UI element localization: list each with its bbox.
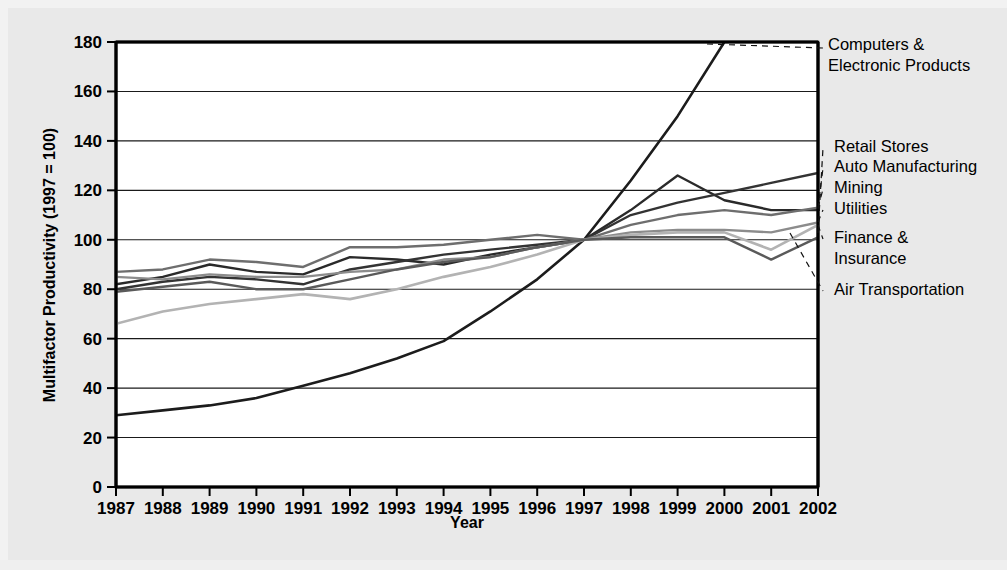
x-tick-label: 1993: [378, 499, 416, 518]
x-tick-label: 2000: [705, 499, 743, 518]
series-annotation-label: Insurance: [834, 249, 906, 267]
x-tick-label: 1988: [144, 499, 182, 518]
x-tick-label: 1996: [518, 499, 556, 518]
chart-figure: 020406080100120140160180 198719881989199…: [0, 0, 1007, 570]
y-tick-label: 100: [74, 231, 102, 250]
y-tick-label: 60: [83, 330, 102, 349]
series-annotation-label: Electronic Products: [828, 56, 970, 74]
x-tick-label: 1999: [659, 499, 697, 518]
y-axis-title: Multifactor Productivity (1997 = 100): [41, 128, 58, 402]
y-tick-labels: 020406080100120140160180: [74, 33, 102, 497]
x-tick-label: 1998: [612, 499, 650, 518]
x-axis-title: Year: [450, 514, 484, 531]
y-tick-label: 140: [74, 132, 102, 151]
x-tick-label: 2001: [752, 499, 790, 518]
series-annotation-label: Retail Stores: [834, 137, 928, 155]
x-tick-label: 1991: [284, 499, 322, 518]
series-annotation-label: Auto Manufacturing: [834, 157, 977, 175]
series-annotation-label: Mining: [834, 178, 883, 196]
y-tick-label: 80: [83, 280, 102, 299]
y-tick-label: 20: [83, 429, 102, 448]
plot-area: [116, 42, 818, 487]
y-tick-label: 40: [83, 379, 102, 398]
y-tick-label: 0: [93, 478, 102, 497]
series-annotation-label: Utilities: [834, 199, 887, 217]
x-tick-label: 1987: [97, 499, 135, 518]
series-annotation-label: Computers &: [828, 35, 924, 53]
series-annotation-label: Finance &: [834, 228, 908, 246]
x-tick-label: 2002: [799, 499, 837, 518]
y-tick-label: 120: [74, 181, 102, 200]
y-tick-label: 180: [74, 33, 102, 52]
x-tick-label: 1997: [565, 499, 603, 518]
series-annotations: Computers &Electronic ProductsRetail Sto…: [828, 35, 977, 298]
line-chart: 020406080100120140160180 198719881989199…: [0, 0, 1007, 570]
series-annotation-label: Air Transportation: [834, 280, 964, 298]
x-tick-label: 1992: [331, 499, 369, 518]
y-tick-label: 160: [74, 82, 102, 101]
x-tick-label: 1990: [237, 499, 275, 518]
x-tick-label: 1989: [191, 499, 229, 518]
